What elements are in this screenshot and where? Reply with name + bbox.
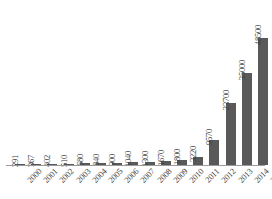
- bar-slot: 367: [28, 6, 44, 165]
- bar-value-label: 900: [108, 154, 117, 166]
- bar-value-label: 1800: [173, 149, 182, 165]
- x-axis-tick-label: 2013: [236, 167, 254, 185]
- bar-slot: 1670: [158, 6, 174, 165]
- x-axis-tick-label: 2003: [74, 167, 92, 185]
- x-axis-tick-label: 2007: [139, 167, 157, 185]
- x-axis-tick-label: 2009: [172, 167, 190, 185]
- x-axis-tick-label: 2015: [269, 167, 272, 185]
- x-axis-tick-label: 2002: [58, 167, 76, 185]
- x-axis-line: [6, 165, 265, 166]
- bar: [242, 73, 252, 165]
- bar-slot: 291: [12, 6, 28, 165]
- bar-slot: 510: [61, 6, 77, 165]
- bar-value-label: 1670: [157, 150, 166, 166]
- bar-slot: 23700: [223, 6, 239, 165]
- bar: [226, 103, 236, 165]
- bar: [258, 38, 268, 165]
- bar-value-label: 9570: [205, 129, 214, 145]
- bar-slot: 1300: [142, 6, 158, 165]
- bar-value-label: 23700: [222, 90, 231, 110]
- bar-slot: 900: [109, 6, 125, 165]
- x-axis-tick-label: 2011: [204, 167, 222, 185]
- bar-value-label: 35000: [238, 60, 247, 80]
- bar-slot: 680: [77, 6, 93, 165]
- bar-value-label: 48500: [254, 25, 263, 45]
- plot-area: 2913674025106808409001040130016701800322…: [6, 6, 268, 165]
- x-axis-tick-label: 2008: [155, 167, 173, 185]
- bar-slot: 1040: [125, 6, 141, 165]
- x-axis-tick-label: 2014: [253, 167, 271, 185]
- bar-chart: 2913674025106808409001040130016701800322…: [0, 0, 272, 199]
- bar-slot: 402: [44, 6, 60, 165]
- bar-slot: 48500: [255, 6, 271, 165]
- bar-slot: 9570: [206, 6, 222, 165]
- bar-value-label: 3220: [189, 145, 198, 161]
- x-axis-tick-label: 2004: [91, 167, 109, 185]
- x-axis-tick-label: 2012: [220, 167, 238, 185]
- bar-slot: 1800: [174, 6, 190, 165]
- bar-slot: 840: [93, 6, 109, 165]
